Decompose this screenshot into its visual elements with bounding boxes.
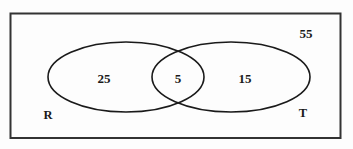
count-r-only: 25 [98,71,112,86]
set-label-r: R [43,108,53,122]
count-intersection: 5 [175,71,182,86]
count-t-only: 15 [239,71,253,86]
set-label-t: T [299,106,308,120]
venn-diagram: 25 5 15 55 R T [0,0,353,149]
venn-diagram-canvas: 25 5 15 55 R T [0,0,353,149]
count-outside-sets: 55 [300,26,314,41]
